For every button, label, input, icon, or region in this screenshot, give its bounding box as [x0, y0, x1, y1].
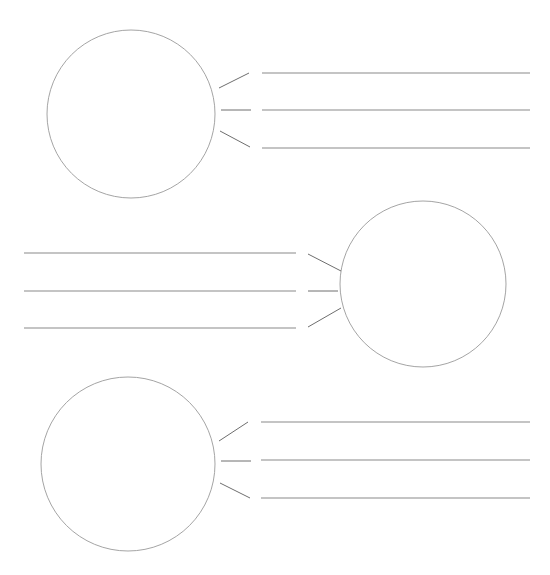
middle-group [24, 201, 506, 367]
diagram-groups-layer [24, 30, 530, 551]
whisker-line [219, 422, 248, 441]
whisker-line [308, 254, 341, 271]
whisker-line [308, 308, 341, 327]
top-group [47, 30, 530, 198]
bottom-group [41, 377, 530, 551]
circle-outline [41, 377, 215, 551]
diagram-canvas [0, 0, 550, 575]
whisker-line [220, 483, 250, 498]
circle-outline [47, 30, 215, 198]
circle-outline [340, 201, 506, 367]
diagram-canvas-wrapper [0, 0, 550, 575]
whisker-line [219, 73, 249, 88]
whisker-line [220, 131, 250, 147]
